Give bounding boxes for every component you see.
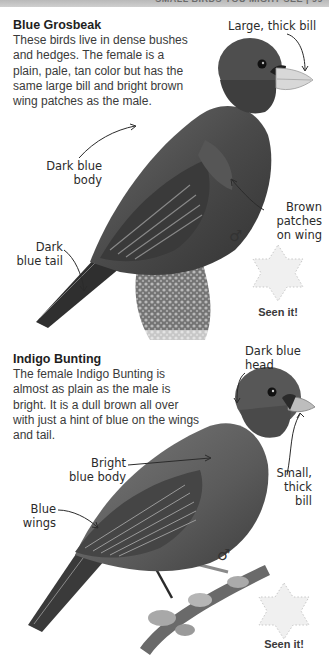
male-symbol-icon: ♂	[217, 548, 230, 563]
bird-title: Blue Grosbeak	[13, 18, 188, 33]
pointer-blue-wings	[58, 510, 97, 527]
pointer-dark-blue-body	[79, 126, 135, 158]
label-large-thick-bill: Large, thick bill	[228, 19, 316, 33]
label-brown-patches-on-wing: Brown patches on wing	[262, 200, 322, 242]
male-symbol-icon: ♂	[229, 229, 242, 244]
seen-it-label: Seen it!	[244, 306, 312, 318]
seen-it-checkbox[interactable]: Seen it!	[250, 638, 318, 650]
indigo-bunting-section: Indigo Bunting The female Indigo Bunting…	[13, 352, 203, 443]
label-dark-blue-head: Dark blue head	[245, 344, 301, 372]
bird-description: These birds live in dense bushes and hed…	[13, 33, 188, 109]
seen-it-label: Seen it!	[250, 638, 318, 650]
bird-title: Indigo Bunting	[13, 352, 203, 367]
seen-it-checkbox[interactable]: Seen it!	[244, 302, 312, 318]
label-blue-wings: Blue wings	[10, 502, 56, 530]
label-bright-blue-body: Bright blue body	[60, 456, 126, 484]
label-dark-blue-body: Dark blue body	[34, 159, 102, 187]
bird-description: The female Indigo Bunting is almost as p…	[13, 367, 203, 443]
seen-it-star-1	[253, 245, 303, 301]
label-small-thick-bill: Small, thick bill	[262, 466, 312, 508]
label-dark-blue-tail: Dark blue tail	[3, 240, 63, 268]
blue-grosbeak-section: Blue Grosbeak These birds live in dense …	[13, 18, 188, 109]
pointer-large-thick-bill	[287, 34, 305, 70]
seen-it-star-2	[259, 583, 309, 639]
